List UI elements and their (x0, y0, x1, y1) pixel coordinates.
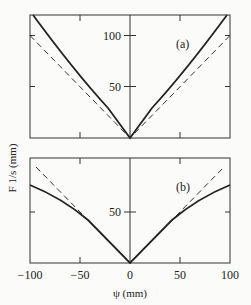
xtick-50: 50 (174, 268, 186, 282)
panel-label-b: (b) (176, 180, 190, 194)
panel-label-a: (a) (176, 37, 189, 51)
xtick-minus-50: −50 (71, 268, 90, 282)
panel-b: 50 (b) −100 −50 0 50 100 ψ (mm) (18, 158, 239, 300)
panel-a: 100 50 (a) (30, 15, 230, 138)
xtick-100: 100 (221, 268, 239, 282)
ytick-50-b: 50 (109, 205, 121, 219)
xtick-0: 0 (127, 268, 133, 282)
figure: 100 50 (a) F 1/s (mm) 50 (b) −100 −50 0 … (0, 0, 251, 305)
ytick-50-a: 50 (109, 80, 121, 94)
y-axis-label: F 1/s (mm) (6, 143, 19, 192)
xtick-minus-100: −100 (18, 268, 43, 282)
x-axis-label: ψ (mm) (113, 287, 147, 300)
ytick-100: 100 (103, 29, 121, 43)
